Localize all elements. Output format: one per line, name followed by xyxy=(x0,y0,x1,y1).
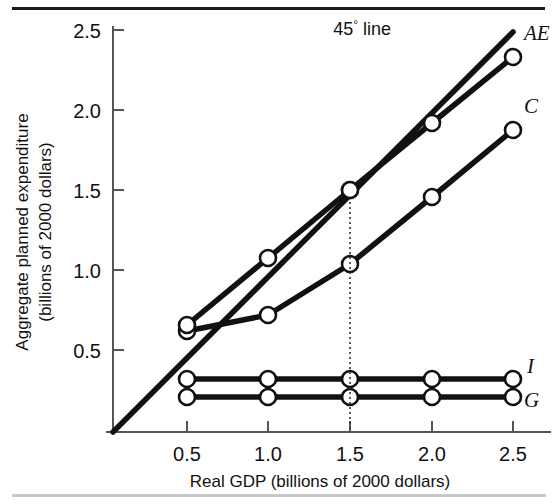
annot-45-number: 45 xyxy=(333,19,353,39)
data-point-G-1.0 xyxy=(260,389,276,405)
curve-label-I: I xyxy=(526,354,535,378)
y-axis xyxy=(113,26,124,433)
y-tick-label-1.5: 1.5 xyxy=(73,180,101,202)
x-axis-title: Real GDP (billions of 2000 dollars) xyxy=(190,472,450,491)
chart-svg: 2.5 2.0 1.5 1.0 0.5 0.5 1.0 1.5 2.0 2.5 … xyxy=(0,0,558,503)
data-point-C-2.0 xyxy=(424,189,440,205)
x-tick-label-1.5: 1.5 xyxy=(336,443,364,465)
data-point-G-2.5 xyxy=(505,389,521,405)
x-tick-label-1.0: 1.0 xyxy=(254,443,282,465)
curve-label-AE: AE xyxy=(522,21,550,45)
forty-five-degree-line xyxy=(113,32,513,432)
data-point-AE-2.5 xyxy=(505,49,521,65)
curve-label-G: G xyxy=(524,388,539,412)
x-tick-label-2.5: 2.5 xyxy=(499,443,527,465)
y-axis-title-line2: (billions of 2000 dollars) xyxy=(36,142,55,322)
data-point-I-2.0 xyxy=(424,371,440,387)
y-tick-label-1.0: 1.0 xyxy=(73,260,101,282)
y-tick-label-2.0: 2.0 xyxy=(73,100,101,122)
figure-panel: 2.5 2.0 1.5 1.0 0.5 0.5 1.0 1.5 2.0 2.5 … xyxy=(0,0,558,503)
data-point-AE-1.0 xyxy=(260,250,276,266)
x-tick-label-2.0: 2.0 xyxy=(418,443,446,465)
data-point-G-0.5 xyxy=(179,389,195,405)
y-tick-label-0.5: 0.5 xyxy=(73,340,101,362)
forty-five-degree-label: 45° line xyxy=(333,18,391,39)
data-point-I-0.5 xyxy=(179,371,195,387)
x-tick-label-0.5: 0.5 xyxy=(173,443,201,465)
y-tick-labels: 2.5 2.0 1.5 1.0 0.5 xyxy=(73,20,101,362)
data-point-I-2.5 xyxy=(505,371,521,387)
curve-label-C: C xyxy=(524,94,539,118)
data-point-C-1.0 xyxy=(260,307,276,323)
equilibrium-point xyxy=(342,182,358,198)
data-point-I-1.0 xyxy=(260,371,276,387)
data-point-G-2.0 xyxy=(424,389,440,405)
y-axis-title-line1: Aggregate planned expenditure xyxy=(13,113,32,350)
data-point-AE-2.0 xyxy=(424,115,440,131)
x-tick-labels: 0.5 1.0 1.5 2.0 2.5 xyxy=(173,443,527,465)
data-point-AE-0.5 xyxy=(179,317,195,333)
x-axis xyxy=(106,421,551,432)
series-line-C xyxy=(179,122,521,339)
annot-45-word: line xyxy=(358,19,391,39)
y-tick-label-2.5: 2.5 xyxy=(73,20,101,42)
data-point-C-2.5 xyxy=(505,122,521,138)
